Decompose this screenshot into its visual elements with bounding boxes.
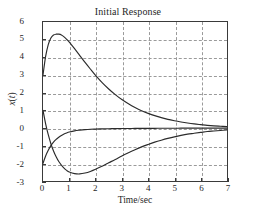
- x-tick-mark: [122, 178, 123, 182]
- curve-layer: [43, 22, 227, 181]
- x-tick-label: 4: [137, 184, 159, 193]
- x-tick-mark: [42, 178, 43, 182]
- x-tick-label: 1: [58, 184, 80, 193]
- y-tick-label: -2: [0, 160, 24, 169]
- y-tick-label: 0: [0, 124, 24, 133]
- x-tick-label: 3: [111, 184, 133, 193]
- data-curve: [43, 34, 227, 126]
- x-tick-label: 7: [217, 184, 239, 193]
- x-tick-label: 6: [190, 184, 212, 193]
- data-curve: [43, 128, 227, 163]
- y-tick-mark: [42, 39, 46, 40]
- data-curve: [43, 110, 227, 174]
- plot-area: [42, 21, 228, 182]
- y-tick-mark: [42, 146, 46, 147]
- x-axis-label: Time/sec: [42, 195, 228, 205]
- chart-figure: Initial Response 6543210-1-2-3 01234567 …: [0, 0, 256, 218]
- y-tick-label: 4: [0, 52, 24, 61]
- x-tick-label: 5: [164, 184, 186, 193]
- y-tick-mark: [42, 164, 46, 165]
- y-tick-mark: [42, 75, 46, 76]
- y-tick-label: 5: [0, 34, 24, 43]
- y-tick-label: 6: [0, 17, 24, 26]
- x-tick-label: 2: [84, 184, 106, 193]
- x-tick-mark: [95, 178, 96, 182]
- x-tick-mark: [69, 178, 70, 182]
- chart-title: Initial Response: [0, 6, 256, 17]
- y-tick-mark: [42, 182, 46, 183]
- y-tick-label: -3: [0, 178, 24, 187]
- x-tick-mark: [201, 178, 202, 182]
- y-tick-mark: [42, 93, 46, 94]
- x-tick-mark: [148, 178, 149, 182]
- x-tick-mark: [228, 178, 229, 182]
- y-tick-mark: [42, 21, 46, 22]
- y-axis-label: x(t): [7, 79, 17, 119]
- y-tick-mark: [42, 128, 46, 129]
- y-tick-mark: [42, 110, 46, 111]
- x-tick-label: 0: [31, 184, 53, 193]
- y-tick-label: 3: [0, 70, 24, 79]
- x-tick-mark: [175, 178, 176, 182]
- y-tick-label: -1: [0, 142, 24, 151]
- y-tick-mark: [42, 57, 46, 58]
